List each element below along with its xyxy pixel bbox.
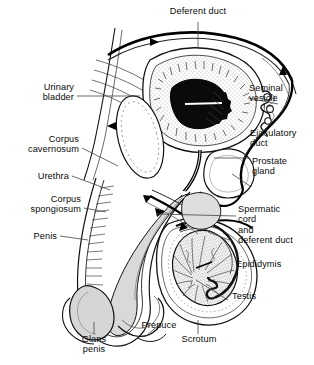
flow-arrow-bladder bbox=[107, 122, 116, 130]
label-prepuce: Prepuce bbox=[128, 320, 190, 330]
label-testis: Testis bbox=[232, 291, 294, 301]
label-deferent-duct: Deferent duct bbox=[152, 6, 244, 16]
label-prostate-gland: Prostate gland bbox=[252, 156, 312, 177]
anatomical-diagram-figure: Deferent duct Urinary bladder Corpus cav… bbox=[0, 0, 314, 365]
label-corpus-spongiosum: Corpus spongiosum bbox=[0, 194, 81, 215]
flow-arrow-deferent bbox=[150, 38, 159, 46]
label-scrotum: Scrotum bbox=[170, 334, 228, 344]
label-corpus-cavernosum: Corpus cavernosum bbox=[0, 134, 79, 155]
label-ejaculatory-duct: Ejaculatory duct bbox=[250, 128, 314, 149]
label-spermatic-cord: Spermatic cord and deferent duct bbox=[238, 204, 314, 246]
label-penis: Penis bbox=[0, 231, 57, 241]
label-urethra: Urethra bbox=[0, 171, 69, 181]
anatomy-illustration bbox=[0, 0, 314, 365]
label-epididymis: Epididymis bbox=[236, 259, 314, 269]
label-glans-penis: Glans penis bbox=[60, 334, 128, 355]
label-seminal-vesicle: Seminal vesicle bbox=[249, 83, 311, 104]
leader-corpus-cavernosum bbox=[82, 148, 118, 166]
bulb-of-penis bbox=[182, 193, 221, 230]
label-urinary-bladder: Urinary bladder bbox=[0, 82, 74, 103]
